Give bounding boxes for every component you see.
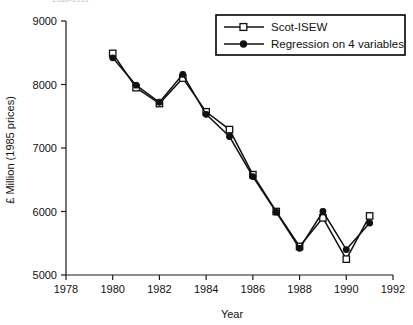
open-square-marker [366,213,372,219]
x-axis-tick-label: 1982 [147,283,171,295]
filled-circle-marker [157,99,163,105]
open-square-marker [226,126,232,132]
x-axis-ticks [66,275,393,280]
filled-circle-marker [343,247,349,253]
x-axis-tick-label: 1986 [241,283,265,295]
line-chart-plot: 50006000700080009000 1978198019821984198… [0,0,413,325]
x-axis-tick-label: 1990 [334,283,358,295]
y-axis-tick-label: 5000 [33,269,57,281]
legend-item-label: Regression on 4 variables [271,38,404,50]
open-square-marker [240,24,247,31]
x-axis-title: Year [221,308,244,320]
filled-circle-marker [367,220,373,226]
filled-circle-marker [110,55,116,61]
filled-circle-marker [273,209,279,215]
y-axis-tick-label: 7000 [33,142,57,154]
filled-circle-marker [250,174,256,180]
x-axis-tick-labels: 19781980198219841986198819901992 [54,283,405,295]
chart-legend: Scot-ISEWRegression on 4 variables [216,15,405,55]
y-axis-title: £ Million (1985 prices) [4,96,16,204]
partial-top-caption: 1980-1991 [52,0,89,3]
open-square-marker [343,256,349,262]
chart-figure: 1980-1991 50006000700080009000 197819801… [0,0,413,325]
filled-circle-marker [297,245,303,251]
filled-circle-marker [227,134,233,140]
legend-item-label: Scot-ISEW [271,21,327,33]
filled-circle-marker [180,71,186,77]
x-axis-tick-label: 1980 [100,283,124,295]
x-axis-tick-label: 1992 [381,283,405,295]
filled-circle-marker [240,41,246,47]
y-axis-tick-labels: 50006000700080009000 [33,15,57,281]
filled-circle-marker [133,82,139,88]
y-axis-tick-label: 8000 [33,79,57,91]
x-axis-tick-label: 1988 [287,283,311,295]
y-axis-tick-label: 9000 [33,15,57,27]
y-axis-ticks [61,21,66,275]
y-axis-tick-label: 6000 [33,206,57,218]
filled-circle-marker [320,209,326,215]
x-axis-tick-label: 1978 [54,283,78,295]
filled-circle-marker [203,111,209,117]
data-series-group [110,50,373,262]
x-axis-tick-label: 1984 [194,283,218,295]
